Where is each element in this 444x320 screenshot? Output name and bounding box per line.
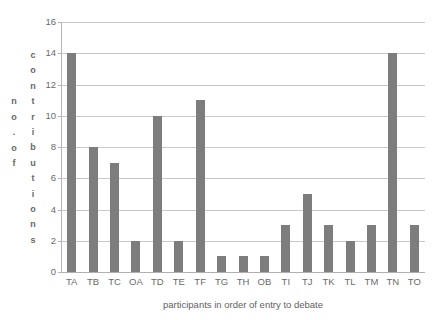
y-axis-label-outer: no.of xyxy=(8,94,20,172)
y-axis-tick-label: 0 xyxy=(38,266,56,277)
x-axis-title: participants in order of entry to debate xyxy=(61,299,425,310)
y-axis-tick xyxy=(58,178,62,179)
bar xyxy=(131,241,140,272)
bar xyxy=(217,256,226,272)
y-axis-tick xyxy=(58,147,62,148)
bar xyxy=(153,116,162,272)
y-axis-tick xyxy=(58,241,62,242)
bar xyxy=(324,225,333,272)
y-axis-tick-label: 4 xyxy=(38,204,56,215)
y-axis-tick xyxy=(58,22,62,23)
plot-area xyxy=(61,22,425,272)
y-axis-label-outer-char: n xyxy=(8,94,20,110)
bar-series xyxy=(61,22,425,272)
y-axis-tick xyxy=(58,85,62,86)
bar xyxy=(346,241,355,272)
y-axis-tick-label: 12 xyxy=(38,79,56,90)
y-axis-tick xyxy=(58,53,62,54)
y-axis-tick-labels: 0246810121416 xyxy=(36,22,56,272)
bar xyxy=(367,225,376,272)
bar xyxy=(303,194,312,272)
x-axis-tick-label: TO xyxy=(401,276,427,287)
y-axis-tick-label: 14 xyxy=(38,47,56,58)
y-axis-label-outer-char: f xyxy=(8,156,20,172)
y-axis-tick-label: 10 xyxy=(38,110,56,121)
y-axis-tick xyxy=(58,272,62,273)
y-axis-label-outer-char: . xyxy=(8,125,20,141)
bar xyxy=(410,225,419,272)
y-axis-label-outer-char: o xyxy=(8,110,20,126)
bar xyxy=(239,256,248,272)
bar xyxy=(281,225,290,272)
bar xyxy=(196,100,205,272)
y-axis-tick-label: 6 xyxy=(38,172,56,183)
x-axis-tick-labels: TATBTCOATDTETFTGTHOBTITJTKTLTMTNTO xyxy=(61,276,425,290)
y-axis-tick xyxy=(58,116,62,117)
bar xyxy=(89,147,98,272)
bar xyxy=(174,241,183,272)
bar xyxy=(110,163,119,272)
y-axis-label-outer-char: o xyxy=(8,141,20,157)
bar xyxy=(260,256,269,272)
bar-chart: no.of contributions 0246810121416 TATBTC… xyxy=(0,0,444,320)
gridline xyxy=(61,272,425,273)
y-axis-tick-label: 8 xyxy=(38,141,56,152)
y-axis-tick xyxy=(58,210,62,211)
bar xyxy=(388,53,397,272)
y-axis-tick-label: 16 xyxy=(38,16,56,27)
bar xyxy=(67,53,76,272)
y-axis-tick-label: 2 xyxy=(38,235,56,246)
